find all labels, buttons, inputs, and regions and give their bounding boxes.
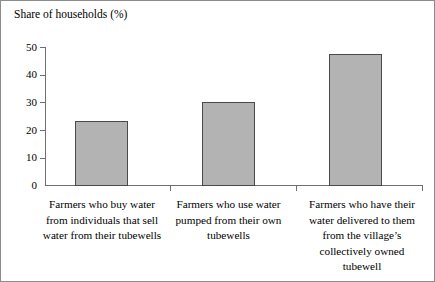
category-label-3-line-2: water delivered to them bbox=[293, 213, 431, 229]
category-label-2-line-2: pumped from their own bbox=[164, 213, 293, 229]
x-tick-mark-1 bbox=[170, 186, 171, 191]
category-label-3-line-4: collectively owned bbox=[293, 244, 431, 260]
y-axis-line bbox=[45, 47, 46, 186]
category-label-1: Farmers who buy water from individuals t… bbox=[23, 197, 181, 244]
y-tick-label-0: 0 bbox=[15, 180, 37, 191]
bar-farmers-own-tubewells bbox=[202, 102, 255, 186]
plot-area: 50 40 30 20 10 0 Farmers who buy water f… bbox=[1, 1, 435, 282]
category-label-3-line-5: tubewell bbox=[293, 259, 431, 275]
category-label-3-line-1: Farmers who have their bbox=[293, 197, 431, 213]
category-label-2-line-3: tubewells bbox=[164, 228, 293, 244]
y-tick-label-10: 10 bbox=[15, 152, 37, 163]
category-label-1-line-1: Farmers who buy water bbox=[23, 197, 181, 213]
chart-figure: Share of households (%) 50 40 30 20 10 0… bbox=[0, 0, 435, 282]
y-tick-label-40: 40 bbox=[15, 69, 37, 80]
y-tick-label-30: 30 bbox=[15, 97, 37, 108]
category-label-3-line-3: from the village’s bbox=[293, 228, 431, 244]
x-tick-mark-2 bbox=[296, 186, 297, 191]
category-label-3: Farmers who have their water delivered t… bbox=[293, 197, 431, 275]
y-tick-label-20: 20 bbox=[15, 125, 37, 136]
category-label-1-line-3: water from their tubewells bbox=[23, 228, 181, 244]
category-label-2-line-1: Farmers who use water bbox=[164, 197, 293, 213]
bar-farmers-buy-water bbox=[75, 121, 128, 186]
x-tick-mark-3 bbox=[422, 186, 423, 191]
y-tick-label-50: 50 bbox=[15, 42, 37, 53]
bar-farmers-village-tubewell bbox=[329, 54, 382, 186]
category-label-1-line-2: from individuals that sell bbox=[23, 213, 181, 229]
category-label-2: Farmers who use water pumped from their … bbox=[164, 197, 293, 244]
